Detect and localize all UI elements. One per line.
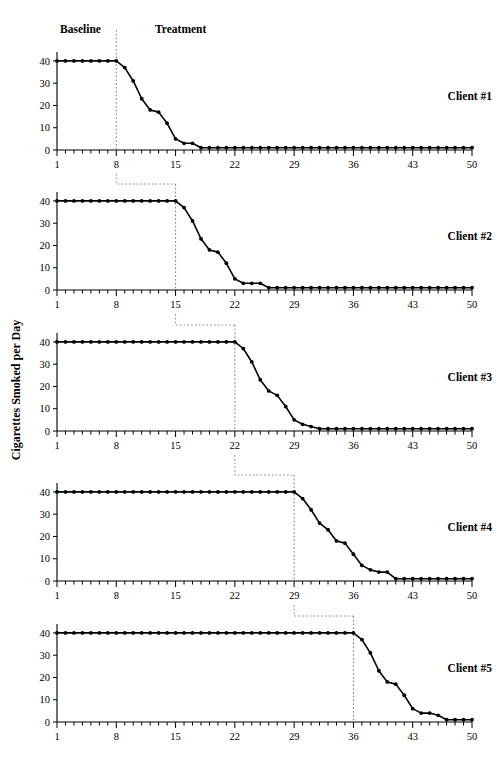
data-point: [174, 340, 178, 344]
data-point: [81, 59, 85, 63]
data-point: [445, 577, 449, 581]
data-point: [258, 281, 262, 285]
data-point: [267, 490, 271, 494]
data-point: [360, 427, 364, 431]
data-point: [241, 281, 245, 285]
data-point: [301, 422, 305, 426]
data-point: [453, 146, 457, 150]
data-point: [292, 146, 296, 150]
data-point: [250, 281, 254, 285]
data-point: [335, 539, 339, 543]
data-point: [64, 199, 68, 203]
y-tick-label: 40: [40, 337, 51, 348]
data-point: [360, 638, 364, 642]
data-point: [411, 427, 415, 431]
data-point: [165, 121, 169, 125]
x-tick-label: 36: [348, 440, 359, 451]
data-point: [394, 146, 398, 150]
data-point: [318, 286, 322, 290]
x-tick-label: 29: [289, 731, 300, 742]
data-point: [352, 427, 356, 431]
x-tick-label: 1: [54, 159, 59, 170]
data-point: [106, 199, 110, 203]
x-tick-label: 43: [407, 299, 418, 310]
data-point: [165, 340, 169, 344]
data-point: [419, 711, 423, 715]
data-point: [335, 146, 339, 150]
data-point: [352, 286, 356, 290]
data-point: [462, 146, 466, 150]
data-point: [114, 59, 118, 63]
data-point: [445, 146, 449, 150]
data-point: [89, 631, 93, 635]
data-point: [131, 79, 135, 83]
data-point: [157, 631, 161, 635]
data-point: [284, 405, 288, 409]
y-tick-label: 20: [40, 240, 51, 251]
data-point: [114, 340, 118, 344]
y-tick-label: 40: [40, 196, 51, 207]
x-tick-label: 50: [467, 731, 478, 742]
data-point: [123, 66, 127, 70]
data-point: [55, 490, 59, 494]
data-point: [284, 146, 288, 150]
data-point: [55, 340, 59, 344]
data-point: [241, 490, 245, 494]
x-tick-label: 50: [467, 440, 478, 451]
x-tick-label: 43: [407, 731, 418, 742]
data-point: [233, 340, 237, 344]
data-point: [182, 340, 186, 344]
data-point: [402, 577, 406, 581]
data-point: [385, 286, 389, 290]
data-point: [419, 286, 423, 290]
data-point: [368, 568, 372, 572]
y-tick-label: 30: [40, 650, 51, 661]
data-point: [216, 340, 220, 344]
data-point: [284, 631, 288, 635]
data-point: [165, 199, 169, 203]
data-point: [377, 146, 381, 150]
data-point: [394, 577, 398, 581]
data-point: [233, 146, 237, 150]
y-tick-label: 40: [40, 628, 51, 639]
data-point: [148, 108, 152, 112]
y-tick-label: 30: [40, 359, 51, 370]
data-point: [191, 141, 195, 145]
x-tick-label: 22: [230, 159, 241, 170]
data-point: [453, 427, 457, 431]
data-point: [335, 286, 339, 290]
data-point: [199, 490, 203, 494]
x-tick-label: 50: [467, 590, 478, 601]
x-tick-label: 8: [114, 159, 119, 170]
data-point: [233, 631, 237, 635]
data-point: [81, 631, 85, 635]
x-tick-label: 8: [114, 590, 119, 601]
data-point: [267, 631, 271, 635]
x-tick-label: 22: [230, 299, 241, 310]
data-point: [394, 682, 398, 686]
data-point: [275, 146, 279, 150]
data-point: [419, 146, 423, 150]
data-point: [208, 631, 212, 635]
data-point: [97, 59, 101, 63]
data-point: [241, 146, 245, 150]
data-point: [284, 286, 288, 290]
data-point: [208, 490, 212, 494]
data-point: [301, 631, 305, 635]
data-point: [97, 340, 101, 344]
y-tick-label: 20: [40, 672, 51, 683]
data-point: [385, 146, 389, 150]
data-point: [140, 340, 144, 344]
data-point: [453, 286, 457, 290]
x-tick-label: 15: [170, 159, 181, 170]
data-point: [394, 286, 398, 290]
data-point: [360, 564, 364, 568]
data-point: [368, 286, 372, 290]
y-tick-label: 0: [45, 285, 50, 296]
data-point: [157, 199, 161, 203]
data-point: [309, 286, 313, 290]
data-point: [72, 631, 76, 635]
data-point: [81, 490, 85, 494]
x-tick-label: 43: [407, 440, 418, 451]
data-point: [343, 631, 347, 635]
